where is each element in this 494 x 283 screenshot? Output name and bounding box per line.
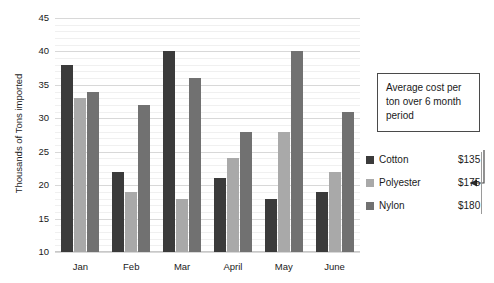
callout-text: Average cost per ton over 6 month period <box>386 82 461 121</box>
bar-group: April <box>207 18 258 252</box>
x-axis-tick-label: Jan <box>55 261 106 272</box>
legend-swatch-icon <box>366 202 374 210</box>
bar <box>291 51 303 252</box>
bar <box>342 112 354 252</box>
bar <box>87 92 99 252</box>
bar <box>163 51 175 252</box>
bar-group: Feb <box>106 18 157 252</box>
bar-group: May <box>258 18 309 252</box>
legend-item: Cotton$135 <box>366 148 490 171</box>
bar <box>176 199 188 252</box>
legend-item-price: $175 <box>458 177 490 188</box>
bar-groups: JanFebMarAprilMayJune <box>55 18 360 252</box>
bar <box>265 199 277 252</box>
x-axis-tick-label: April <box>207 261 258 272</box>
bar <box>214 178 226 252</box>
bar <box>74 98 86 252</box>
bar <box>138 105 150 252</box>
bar <box>227 158 239 252</box>
y-axis-tick-label: 45 <box>38 13 49 23</box>
bar <box>329 172 341 252</box>
legend-item: Nylon$180 <box>366 194 490 217</box>
legend-item-label: Cotton <box>379 154 458 165</box>
y-axis-tick-label: 35 <box>38 80 49 90</box>
gridline-major <box>55 252 360 253</box>
x-axis-tick-label: June <box>309 261 360 272</box>
y-axis-tick-label: 10 <box>38 247 49 257</box>
y-axis-tick-label: 30 <box>38 114 49 124</box>
x-axis-tick-label: Mar <box>157 261 208 272</box>
legend-item-label: Polyester <box>379 177 458 188</box>
x-axis-tick-label: Feb <box>106 261 157 272</box>
bar-group: Jan <box>55 18 106 252</box>
chart-figure: Thousands of Tons imported 4540353025201… <box>0 0 494 283</box>
bar <box>189 78 201 252</box>
y-axis-tick-label: 15 <box>38 214 49 224</box>
legend-swatch-icon <box>366 156 374 164</box>
average-cost-callout: Average cost per ton over 6 month period <box>377 73 480 132</box>
y-axis-tick-label: 25 <box>38 147 49 157</box>
legend: Cotton$135Polyester$175Nylon$180 <box>366 148 490 217</box>
legend-item-label: Nylon <box>379 200 458 211</box>
bar <box>278 132 290 252</box>
legend-item-price: $135 <box>458 154 490 165</box>
x-axis-tick-label: May <box>258 261 309 272</box>
bar <box>61 65 73 252</box>
legend-swatch-icon <box>366 179 374 187</box>
bar <box>125 192 137 252</box>
bar <box>112 172 124 252</box>
plot-area: 4540353025201510 JanFebMarAprilMayJune <box>55 18 360 252</box>
bar <box>316 192 328 252</box>
bar-group: Mar <box>157 18 208 252</box>
bar <box>240 132 252 252</box>
bar-group: June <box>309 18 360 252</box>
legend-item-price: $180 <box>458 200 490 211</box>
y-axis-title: Thousands of Tons imported <box>13 49 24 219</box>
y-axis-tick-label: 20 <box>38 180 49 190</box>
legend-item: Polyester$175 <box>366 171 490 194</box>
y-axis-tick-label: 40 <box>38 47 49 57</box>
